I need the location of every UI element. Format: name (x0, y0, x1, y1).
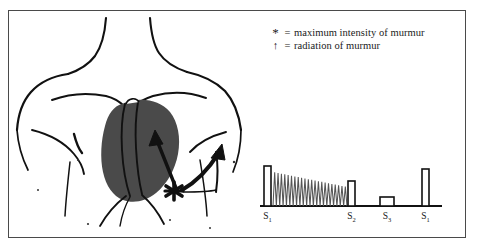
heart-sound-label-s1-0: S1 (263, 211, 272, 223)
neck-left-outline (68, 18, 106, 74)
heart-sound-bar-s1-3 (422, 169, 429, 206)
heart-sound-label-subscript: 3 (388, 216, 391, 223)
legend: * = maximum intensity of murmur ↑ = radi… (270, 24, 470, 53)
heart-sound-bar-s2-1 (348, 181, 355, 206)
up-arrow-icon: ↑ (270, 39, 281, 52)
heart-sound-label-s1-3: S1 (421, 211, 430, 223)
asterisk-icon: * (270, 25, 281, 40)
axilla-left-fold (74, 134, 82, 153)
arm-right-outline (233, 130, 241, 172)
neck-right-outline (150, 18, 187, 72)
legend-row-max-intensity: * = maximum intensity of murmur (270, 24, 470, 39)
axilla-guide-line (216, 152, 218, 192)
legend-row-radiation: ↑ = radiation of murmur (270, 39, 470, 52)
heart-sound-label-s3-2: S3 (383, 211, 392, 223)
decrescendo-murmur-waveform (273, 172, 347, 206)
heart-sound-label-subscript: 1 (269, 216, 272, 223)
figure-root: * = maximum intensity of murmur ↑ = radi… (0, 0, 480, 248)
heart-sound-label-subscript: 2 (353, 216, 356, 223)
max-intensity-asterisk-marker (165, 182, 183, 200)
legend-equals-sign: = (281, 27, 294, 39)
legend-equals-sign: = (281, 40, 294, 52)
radiation-arrow-axilla-head (211, 144, 225, 160)
costal-margin-left (100, 196, 126, 226)
arm-left-outline (17, 130, 28, 170)
breast-left-contour (32, 130, 84, 174)
legend-label-max-intensity: maximum intensity of murmur (294, 27, 425, 39)
legend-label-radiation: radiation of murmur (294, 40, 380, 52)
heart-sound-bar-s1-0 (264, 166, 271, 206)
shoulder-left-outline (17, 74, 68, 130)
heart-sound-bar-s3-2 (380, 197, 394, 206)
phonocardiogram-chart: S1S2S3S1 (250, 165, 455, 227)
ink-dot (233, 161, 235, 163)
ink-dot (87, 223, 89, 225)
heart-sound-label-subscript: 1 (427, 216, 430, 223)
clavicle-left (52, 94, 124, 106)
ink-dot (209, 227, 211, 229)
heart-sound-label-s2-1: S2 (347, 211, 356, 223)
axilla-under-line (183, 190, 216, 192)
costal-margin-right (142, 195, 164, 224)
chest-torso-illustration (10, 12, 260, 236)
ink-dot (169, 219, 171, 221)
shoulder-right-outline (187, 72, 241, 130)
ink-dot (77, 159, 79, 161)
ink-dot (37, 189, 39, 191)
flank-left-line (65, 162, 70, 216)
